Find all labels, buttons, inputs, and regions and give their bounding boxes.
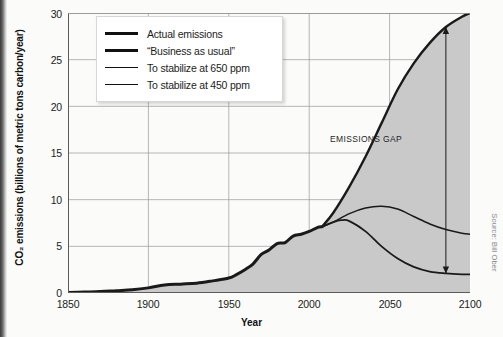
- y-tick-label-30: 30: [36, 8, 62, 20]
- y-axis-title: CO₂ emissions (billions of metric tons c…: [14, 15, 25, 281]
- emissions-gap-label: EMISSIONS GAP: [330, 134, 402, 144]
- legend-item-actual-emissions[interactable]: Actual emissions: [105, 25, 274, 42]
- source-credit: Source: Bill Ober: [490, 198, 499, 288]
- legend-label-business-as-usual: “Business as usual”: [147, 45, 235, 57]
- legend-label-stabilize-650: To stabilize at 650 ppm: [147, 62, 250, 74]
- y-tick-label-10: 10: [36, 194, 62, 206]
- legend-item-stabilize-450[interactable]: To stabilize at 450 ppm: [105, 76, 274, 93]
- x-tick-label-1950: 1950: [209, 298, 249, 310]
- legend-swatch-stabilize-450: [105, 84, 138, 86]
- legend-label-stabilize-450: To stabilize at 450 ppm: [147, 79, 250, 91]
- figure-canvas: CO₂ emissions (billions of metric tons c…: [0, 0, 503, 337]
- y-tick-label-25: 25: [36, 54, 62, 66]
- y-tick-label-15: 15: [36, 147, 62, 159]
- x-tick-label-2050: 2050: [370, 298, 410, 310]
- legend-item-stabilize-650[interactable]: To stabilize at 650 ppm: [105, 59, 274, 76]
- legend-swatch-stabilize-650: [105, 67, 138, 68]
- y-tick-label-20: 20: [36, 101, 62, 113]
- legend-item-business-as-usual[interactable]: “Business as usual”: [105, 42, 274, 59]
- chart-legend: Actual emissions “Business as usual” To …: [96, 16, 283, 102]
- legend-label-actual-emissions: Actual emissions: [147, 28, 223, 40]
- x-tick-label-1900: 1900: [128, 298, 168, 310]
- legend-swatch-business-as-usual: [105, 49, 138, 51]
- x-tick-label-2000: 2000: [289, 298, 329, 310]
- y-tick-label-5: 5: [36, 240, 62, 252]
- legend-swatch-actual-emissions: [105, 32, 138, 35]
- x-axis-title: Year: [0, 317, 503, 328]
- x-tick-label-1850: 1850: [48, 298, 88, 310]
- page-gutter-shadow: [0, 0, 7, 337]
- x-tick-label-2100: 2100: [450, 298, 490, 310]
